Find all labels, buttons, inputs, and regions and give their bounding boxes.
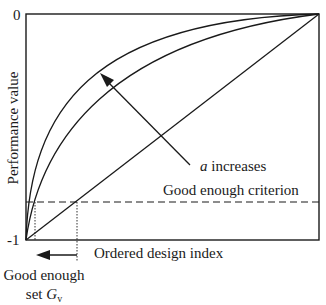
criterion-label: Good enough criterion — [163, 182, 299, 198]
set-label-line2: set Gv — [26, 286, 62, 304]
set-label-subscript: v — [57, 293, 62, 304]
increase-annotation: a increases — [200, 158, 266, 174]
arrow-up-left-icon — [100, 73, 114, 87]
set-label-line1: Good enough — [3, 267, 85, 283]
y-tick-top: 0 — [13, 7, 21, 23]
annotation-text: increases — [208, 158, 267, 174]
annotation-variable: a — [200, 158, 208, 174]
set-label-prefix: set — [26, 286, 46, 302]
x-axis-label: Ordered design index — [94, 245, 224, 261]
linear-curve — [26, 14, 319, 240]
arrow-left-icon — [36, 250, 50, 260]
ordered-performance-curve-diagram: 0 -1 Performance value Ordered design in… — [0, 0, 326, 305]
y-axis-label: Performance value — [5, 71, 21, 184]
set-label-symbol: G — [46, 286, 57, 302]
y-tick-bottom: -1 — [7, 232, 20, 248]
